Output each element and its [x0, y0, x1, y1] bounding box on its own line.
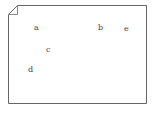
label-c: c — [46, 46, 50, 54]
label-e: e — [124, 25, 129, 33]
label-b: b — [98, 24, 103, 32]
label-a: a — [34, 24, 39, 32]
label-d: d — [28, 66, 33, 74]
document-frame — [8, 5, 147, 104]
document-outline-icon — [8, 5, 147, 104]
